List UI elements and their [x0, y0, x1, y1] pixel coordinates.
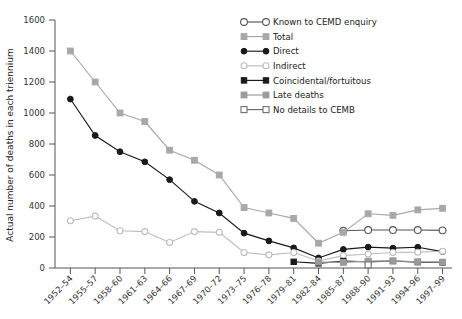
- legend-marker: [263, 34, 269, 40]
- data-point: [67, 48, 73, 54]
- series-6: [365, 262, 371, 268]
- legend-label: Indirect: [273, 61, 306, 71]
- legend-marker: [241, 92, 247, 98]
- data-point: [390, 212, 396, 218]
- data-point: [117, 110, 123, 116]
- data-point: [92, 79, 98, 85]
- data-point: [266, 210, 272, 216]
- y-tick-label: 1000: [23, 108, 45, 118]
- data-point: [291, 259, 296, 264]
- data-point: [365, 227, 372, 234]
- line-chart: Actual number of deaths in each trienniu…: [0, 0, 462, 319]
- data-point: [365, 244, 371, 250]
- data-point: [340, 229, 346, 235]
- data-point: [266, 238, 272, 244]
- data-point: [167, 239, 173, 245]
- series-2: [67, 96, 445, 261]
- legend-marker: [241, 48, 247, 54]
- data-point: [440, 205, 446, 211]
- chart-root: Actual number of deaths in each trienniu…: [0, 0, 462, 319]
- data-point: [241, 250, 247, 256]
- legend-marker: [241, 107, 247, 113]
- legend-marker: [263, 48, 269, 54]
- data-point: [117, 228, 123, 234]
- y-tick-label: 200: [29, 232, 45, 242]
- legend-marker: [241, 34, 247, 40]
- legend-marker: [263, 107, 269, 113]
- y-tick-label: 800: [29, 139, 45, 149]
- data-point: [316, 240, 322, 246]
- series-1: [67, 48, 445, 246]
- data-point: [340, 247, 346, 253]
- legend-label: Coincidental/fortuitous: [273, 76, 371, 86]
- legend-marker: [263, 19, 270, 26]
- data-point: [439, 227, 446, 234]
- data-point: [67, 218, 73, 224]
- series-layer: [67, 48, 446, 268]
- data-point: [216, 229, 222, 235]
- data-point: [191, 229, 197, 235]
- data-point: [365, 211, 371, 217]
- legend-item-6[interactable]: No details to CEMB: [241, 105, 355, 115]
- series-0: [340, 227, 446, 235]
- data-point: [440, 259, 446, 265]
- data-point: [340, 253, 346, 259]
- data-point: [415, 249, 421, 255]
- data-point: [291, 216, 297, 222]
- x-axis-ticks: 1952–541955–571958–601961–631964–661967–…: [42, 268, 447, 306]
- y-tick-label: 600: [29, 170, 45, 180]
- legend-label: Direct: [273, 46, 299, 56]
- data-point: [390, 258, 396, 264]
- legend-label: No details to CEMB: [273, 105, 355, 115]
- data-point: [390, 250, 396, 256]
- data-point: [415, 259, 421, 265]
- data-point: [67, 96, 73, 102]
- y-tick-label: 0: [40, 263, 45, 273]
- data-point: [241, 230, 247, 236]
- chart-legend: Known to CEMD enquiryTotalDirectIndirect…: [241, 17, 377, 115]
- data-point: [92, 213, 98, 219]
- data-point: [192, 157, 198, 163]
- y-tick-label: 1200: [23, 77, 45, 87]
- data-point: [142, 119, 148, 125]
- legend-marker: [241, 19, 248, 26]
- legend-marker: [241, 63, 247, 69]
- legend-marker: [263, 78, 268, 83]
- legend-item-3[interactable]: Indirect: [241, 61, 306, 71]
- data-point: [316, 259, 322, 265]
- data-point: [216, 210, 222, 216]
- data-point: [440, 248, 446, 254]
- data-point: [167, 177, 173, 183]
- series-line: [70, 216, 442, 261]
- data-point: [142, 229, 148, 235]
- legend-item-0[interactable]: Known to CEMD enquiry: [241, 17, 377, 27]
- data-point: [414, 227, 421, 234]
- series-3: [67, 213, 445, 264]
- data-point: [241, 205, 247, 211]
- legend-item-5[interactable]: Late deaths: [241, 90, 324, 100]
- data-point: [266, 252, 272, 258]
- legend-label: Total: [272, 32, 293, 42]
- data-point: [365, 262, 371, 268]
- legend-item-1[interactable]: Total: [241, 32, 293, 42]
- data-point: [167, 147, 173, 153]
- data-point: [390, 227, 397, 234]
- data-point: [216, 172, 222, 178]
- data-point: [291, 250, 297, 256]
- legend-marker: [263, 92, 269, 98]
- y-tick-label: 1600: [23, 15, 45, 25]
- data-point: [142, 159, 148, 165]
- legend-label: Late deaths: [273, 90, 324, 100]
- data-point: [415, 207, 421, 213]
- data-point: [192, 198, 198, 204]
- data-point: [117, 149, 123, 155]
- legend-item-2[interactable]: Direct: [241, 46, 299, 56]
- data-point: [92, 133, 98, 139]
- series-line: [70, 99, 442, 258]
- y-axis-title: Actual number of deaths in each trienniu…: [5, 48, 15, 241]
- legend-marker: [241, 78, 246, 83]
- y-axis-ticks: 02004006008001000120014001600: [23, 15, 55, 273]
- y-tick-label: 1400: [23, 46, 45, 56]
- legend-item-4[interactable]: Coincidental/fortuitous: [241, 76, 371, 86]
- legend-label: Known to CEMD enquiry: [273, 17, 377, 27]
